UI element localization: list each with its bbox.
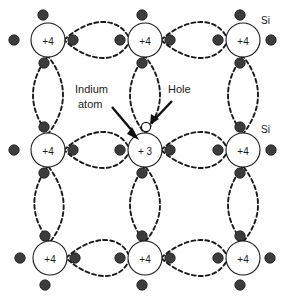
atom-label: + 3: [138, 146, 153, 157]
electron-dot: [235, 58, 245, 68]
electron-dot: [265, 253, 275, 263]
atom-label: +4: [139, 36, 151, 47]
atom-label: +4: [237, 146, 249, 157]
electron-dot: [38, 10, 48, 20]
atom-label: +4: [237, 254, 249, 265]
electron-dot: [40, 231, 50, 241]
electron-dot: [137, 231, 147, 241]
lattice-diagram-page: +4 +4 +4 +4 + 3 +4: [0, 0, 287, 296]
electron-dot: [165, 145, 175, 155]
atom-label: +4: [42, 36, 54, 47]
electron-dot: [213, 145, 223, 155]
hole-callout-line1: Hole: [168, 83, 191, 95]
electron-dot: [68, 35, 78, 45]
si-label-middle: Si: [261, 124, 270, 135]
atom-label: +4: [237, 36, 249, 47]
atom-label: +4: [44, 254, 56, 265]
hole-arrow-icon: [150, 101, 172, 125]
atom-r2c0: +4: [33, 241, 67, 275]
silicon-lattice-svg: +4 +4 +4 +4 + 3 +4: [0, 0, 287, 296]
electron-dot: [115, 35, 125, 45]
electron-dot: [235, 10, 245, 20]
electron-dot: [40, 280, 50, 290]
electron-dot: [213, 253, 223, 263]
atom-label: +4: [139, 254, 151, 265]
electron-dot: [266, 145, 276, 155]
atom-r0c2: +4: [226, 23, 260, 57]
electron-dot: [115, 145, 125, 155]
indium-callout-line1: Indium: [75, 83, 108, 95]
electron-dot: [165, 253, 175, 263]
bond-vertical-r0c0-r1c0: [33, 56, 63, 134]
electron-dot: [137, 10, 147, 20]
atom-r1c2: +4: [226, 133, 260, 167]
electron-dot: [9, 35, 19, 45]
hole-marker-icon: [141, 122, 150, 131]
electron-dot: [115, 253, 125, 263]
atom-r1c0: +4: [31, 133, 65, 167]
electron-dot: [137, 168, 147, 178]
electron-dot: [137, 280, 147, 290]
electron-dot: [235, 122, 245, 132]
electron-dot: [137, 58, 147, 68]
bond-vertical-r1c0-r2c0: [34, 166, 63, 242]
indium-callout-line2: atom: [78, 98, 102, 110]
electron-dot: [213, 35, 223, 45]
atom-r2c2: +4: [226, 241, 260, 275]
electron-dot: [70, 253, 80, 263]
electron-dot: [15, 253, 25, 263]
electron-dot: [39, 122, 49, 132]
atom-indium-r1c1: + 3: [128, 133, 162, 167]
atom-r0c0: +4: [31, 23, 65, 57]
atom-r0c1: +4: [128, 23, 162, 57]
electron-dot: [235, 168, 245, 178]
electron-dot: [235, 231, 245, 241]
atom-r2c1: +4: [128, 241, 162, 275]
electron-dot: [39, 168, 49, 178]
electron-dot: [39, 58, 49, 68]
electron-dot: [235, 280, 245, 290]
electron-dot: [68, 145, 78, 155]
atom-label: +4: [42, 146, 54, 157]
electron-dot: [165, 35, 175, 45]
electron-dot: [266, 35, 276, 45]
si-label-top: Si: [261, 15, 270, 26]
electron-dot: [9, 145, 19, 155]
